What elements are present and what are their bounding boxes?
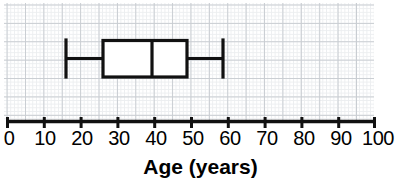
box-iqr (103, 41, 187, 78)
box-plot-series (66, 40, 224, 77)
x-tick-label-40: 40 (145, 126, 166, 150)
x-tick-label-0: 0 (4, 126, 15, 150)
x-tick-label-100: 100 (362, 126, 394, 150)
x-tick-label-70: 70 (256, 126, 277, 150)
x-axis-tick-labels: 0 10 20 30 40 50 60 70 80 90 100 (0, 126, 401, 152)
x-tick-label-30: 30 (108, 126, 129, 150)
x-tick-label-90: 90 (330, 126, 351, 150)
boxplot-figure: 0 10 20 30 40 50 60 70 80 90 100 Age (ye… (0, 0, 401, 191)
x-tick-label-20: 20 (71, 126, 92, 150)
x-tick-label-10: 10 (34, 126, 55, 150)
x-tick-label-60: 60 (219, 126, 240, 150)
x-axis-title: Age (years) (0, 155, 401, 179)
x-tick-label-50: 50 (182, 126, 203, 150)
x-tick-label-80: 80 (293, 126, 314, 150)
